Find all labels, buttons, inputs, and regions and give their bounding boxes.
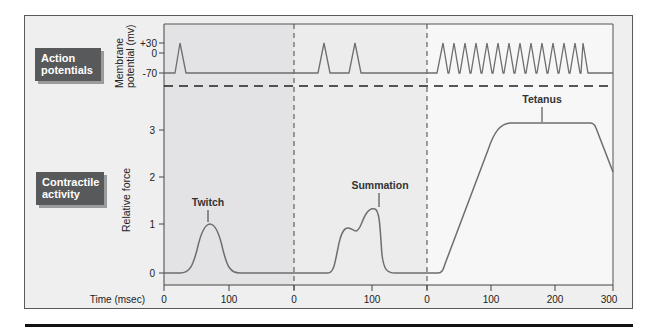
tetanus-label: Tetanus (522, 93, 562, 105)
contractile-activity-label-line1: Contractile (42, 176, 98, 188)
time-tick: 100 (483, 294, 500, 305)
membrane-tick-minus70: -70 (143, 68, 158, 79)
time-tick: 0 (161, 294, 167, 305)
membrane-title-line2: potential (mv) (125, 24, 136, 88)
membrane-potential-axis-title: Membrane potential (mv) (114, 24, 136, 88)
bottom-rule (25, 324, 633, 327)
relative-force-axis-title: Relative force (121, 168, 132, 232)
time-tick: 0 (424, 294, 430, 305)
force-tick-1: 1 (149, 219, 155, 230)
time-tick: 100 (221, 294, 238, 305)
contractile-activity-label: Contractile activity (36, 172, 104, 205)
time-tick: 100 (364, 294, 381, 305)
summation-label: Summation (351, 179, 408, 191)
summation-region (294, 24, 427, 285)
contractile-activity-label-line2: activity (42, 188, 98, 200)
twitch-label: Twitch (192, 196, 224, 208)
time-tick: 200 (547, 294, 564, 305)
force-tick-2: 2 (149, 172, 155, 183)
action-potentials-label-line2: potentials (41, 64, 95, 76)
time-axis-title: Time (msec) (90, 294, 145, 305)
membrane-tick-0: 0 (151, 48, 157, 59)
action-potentials-label: Action potentials (35, 48, 101, 81)
relative-force-title-text: Relative force (121, 168, 132, 232)
time-tick: 300 (601, 294, 618, 305)
action-potentials-label-line1: Action (41, 52, 95, 64)
tetanus-region (427, 24, 613, 285)
force-tick-3: 3 (149, 125, 155, 136)
time-tick: 0 (291, 294, 297, 305)
force-tick-0: 0 (149, 268, 155, 279)
